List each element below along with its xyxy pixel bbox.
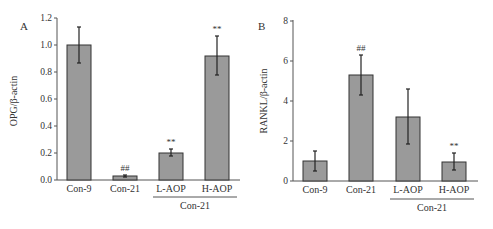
svg-text:L-AOP: L-AOP [156,183,186,194]
svg-text:1.2: 1.2 [40,13,52,23]
panel-b: B RANKL/β-actin 0 2 4 6 8 ## ** [258,16,478,213]
svg-text:6: 6 [283,56,288,66]
panel-a: A OPG/β-actin 0.0 0.2 0.4 0.6 0.8 1.0 1.… [8,13,240,211]
svg-text:Con-21: Con-21 [110,183,140,194]
svg-text:Con-21: Con-21 [346,184,376,195]
panel-b-y-axis-label: RANKL/β-actin [258,68,269,133]
svg-text:Con-9: Con-9 [303,184,328,195]
svg-text:**: ** [450,141,460,151]
panel-b-bars [303,75,466,181]
svg-text:0.2: 0.2 [40,148,52,158]
panel-a-y-axis-label: OPG/β-actin [8,76,19,127]
svg-text:##: ## [121,163,131,173]
panel-a-group-label: Con-21 [180,200,210,211]
panel-a-label: A [20,20,28,32]
panel-a-bars [67,45,229,180]
svg-text:8: 8 [283,16,288,26]
figure: A OPG/β-actin 0.0 0.2 0.4 0.6 0.8 1.0 1.… [0,0,493,229]
svg-text:1.0: 1.0 [40,40,52,50]
panel-a-x-labels: Con-9 Con-21 L-AOP H-AOP [67,183,233,194]
bar-a-l-aop [159,153,183,180]
svg-text:2: 2 [283,136,288,146]
svg-text:**: ** [213,24,223,34]
bar-a-con-9 [67,45,91,180]
svg-text:##: ## [357,43,367,53]
svg-text:0.6: 0.6 [40,94,52,104]
panel-b-y-ticks: 0 2 4 6 8 [283,16,293,186]
svg-text:4: 4 [283,96,288,106]
svg-text:**: ** [167,137,177,147]
svg-text:H-AOP: H-AOP [202,183,233,194]
svg-text:Con-9: Con-9 [67,183,92,194]
panel-b-error-bars [313,55,456,171]
panel-b-x-labels: Con-9 Con-21 L-AOP H-AOP [303,184,470,195]
svg-text:0.4: 0.4 [40,121,52,131]
panel-a-error-bars [77,27,219,177]
svg-text:L-AOP: L-AOP [393,184,423,195]
svg-text:0: 0 [283,176,288,186]
panel-b-label: B [258,20,265,32]
svg-text:0.8: 0.8 [40,67,52,77]
svg-text:H-AOP: H-AOP [439,184,470,195]
panel-b-group-label: Con-21 [417,202,447,213]
panel-a-y-ticks: 0.0 0.2 0.4 0.6 0.8 1.0 1.2 [40,13,57,185]
svg-text:0.0: 0.0 [40,175,52,185]
